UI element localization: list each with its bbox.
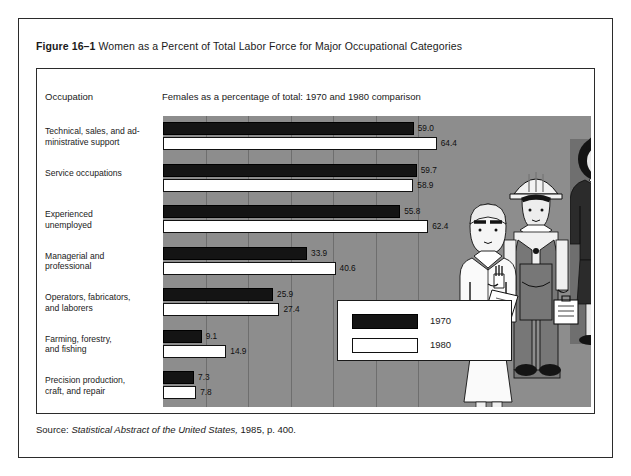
bar-1970	[163, 164, 417, 177]
category-label: Precision production,craft, and repair	[45, 375, 160, 396]
bar-value-label: 33.9	[311, 247, 327, 260]
category-label-line: Precision production,	[45, 375, 160, 386]
category-label-line: Farming, forestry,	[45, 334, 160, 345]
bar-1980	[163, 220, 428, 233]
bar-1980	[163, 137, 437, 150]
category-label: Farming, forestry,and fishing	[45, 334, 160, 355]
bar-value-label: 25.9	[277, 288, 293, 301]
category-label-line: ministrative support	[45, 137, 160, 148]
legend-swatch	[352, 338, 418, 353]
source-title: Statistical Abstract of the United State…	[71, 424, 238, 435]
bar-value-label: 7.8	[200, 386, 212, 399]
bar-value-label: 64.4	[441, 137, 457, 150]
three-working-women-illustration	[458, 116, 591, 407]
legend-label: 1980	[430, 339, 451, 350]
bar-value-label: 58.9	[417, 179, 433, 192]
category-label-line: Service occupations	[45, 168, 160, 179]
chart-subtitle: Females as a percentage of total: 1970 a…	[162, 91, 421, 102]
bar-1980	[163, 179, 413, 192]
category-label-line: Managerial and	[45, 251, 160, 262]
source-suffix: 1985, p. 400.	[238, 424, 296, 435]
category-label-line: craft, and repair	[45, 386, 160, 397]
bar-value-label: 62.4	[432, 220, 448, 233]
occupation-column-header: Occupation	[45, 91, 93, 102]
source-prefix: Source:	[36, 424, 71, 435]
bar-value-label: 27.4	[283, 303, 299, 316]
figure-number: Figure 16–1	[36, 40, 95, 52]
bar-1980	[163, 303, 279, 316]
category-label-line: professional	[45, 261, 160, 272]
bar-value-label: 59.7	[421, 164, 437, 177]
category-label: Service occupations	[45, 168, 160, 179]
bar-value-label: 14.9	[230, 345, 246, 358]
bar-value-label: 59.0	[418, 122, 434, 135]
source-citation: Source: Statistical Abstract of the Unit…	[36, 424, 296, 435]
category-label-line: and fishing	[45, 344, 160, 355]
bar-value-label: 40.6	[340, 262, 356, 275]
category-label: Experiencedunemployed	[45, 209, 160, 230]
category-label: Managerial andprofessional	[45, 251, 160, 272]
category-label: Operators, fabricators,and laborers	[45, 292, 160, 313]
bar-1970	[163, 371, 194, 384]
bar-1970	[163, 122, 414, 135]
bar-value-label: 55.8	[404, 205, 420, 218]
construction-worker-figure	[504, 172, 578, 378]
bar-value-label: 9.1	[206, 330, 218, 343]
gridline	[376, 116, 377, 407]
legend-swatch	[352, 314, 418, 329]
bar-1980	[163, 262, 336, 275]
bar-value-label: 7.3	[198, 371, 210, 384]
bar-1970	[163, 205, 400, 218]
figure-title: Women as a Percent of Total Labor Force …	[99, 40, 463, 52]
bar-1970	[163, 247, 307, 260]
bar-1980	[163, 386, 196, 399]
category-label-line: Technical, sales, and ad-	[45, 126, 160, 137]
chart-container: Occupation Females as a percentage of to…	[36, 68, 595, 414]
category-label-line: unemployed	[45, 220, 160, 231]
legend-label: 1970	[430, 315, 451, 326]
bar-1970	[163, 330, 202, 343]
figure-caption: Figure 16–1 Women as a Percent of Total …	[36, 40, 462, 52]
category-label-line: and laborers	[45, 303, 160, 314]
chart-legend: 19701980	[337, 300, 512, 361]
bar-1970	[163, 288, 273, 301]
category-label-line: Operators, fabricators,	[45, 292, 160, 303]
plot-area: 59.064.459.758.955.862.433.940.625.927.4…	[163, 116, 591, 407]
category-label-line: Experienced	[45, 209, 160, 220]
category-label: Technical, sales, and ad-ministrative su…	[45, 126, 160, 147]
gridline	[418, 116, 419, 407]
businesswoman-figure	[570, 135, 591, 345]
bar-1980	[163, 345, 226, 358]
